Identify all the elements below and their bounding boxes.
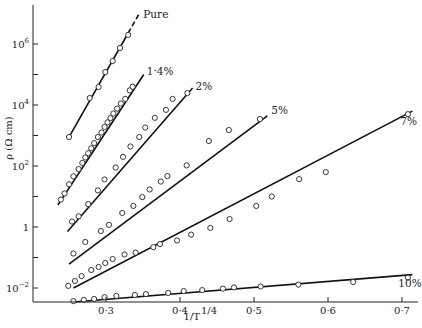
data-point — [103, 69, 108, 74]
data-point — [120, 210, 125, 215]
data-point — [227, 216, 232, 221]
data-point — [120, 154, 125, 159]
data-point — [151, 245, 156, 250]
data-point — [131, 203, 136, 208]
data-point — [184, 163, 189, 168]
data-point — [86, 151, 91, 156]
data-point — [118, 101, 123, 106]
data-point — [79, 274, 84, 279]
data-point — [220, 286, 225, 291]
data-point — [208, 225, 213, 230]
fit-line-extrapolated — [128, 14, 139, 34]
fit-line — [73, 111, 412, 288]
data-point — [126, 32, 131, 37]
data-point — [181, 288, 186, 293]
data-point — [128, 144, 133, 149]
data-point — [231, 285, 236, 290]
data-point — [106, 222, 111, 227]
data-point — [110, 256, 115, 261]
data-point — [158, 179, 163, 184]
y-axis-label: ρ (Ω cm) — [3, 116, 14, 160]
x-axis-label-exponent: 1/4 — [201, 305, 217, 316]
data-point — [257, 116, 262, 121]
data-point — [140, 195, 145, 200]
data-point — [200, 288, 205, 293]
series-14: 1·4% — [58, 65, 174, 206]
data-point — [92, 141, 97, 146]
y-tick-label: 104 — [12, 98, 30, 111]
y-tick-label: 1 — [23, 222, 29, 233]
data-point — [170, 96, 175, 101]
data-point — [189, 232, 194, 237]
data-point — [185, 91, 190, 96]
data-point — [72, 278, 77, 283]
data-point — [96, 264, 101, 269]
data-point — [130, 84, 135, 89]
data-point — [296, 282, 301, 287]
data-point — [110, 58, 115, 63]
data-point — [66, 134, 71, 139]
data-point — [95, 134, 100, 139]
data-point — [71, 251, 76, 256]
data-point — [117, 45, 122, 50]
fit-line — [73, 275, 412, 302]
series-label: 5% — [271, 104, 288, 116]
data-point — [99, 130, 104, 135]
data-point — [137, 134, 142, 139]
data-point — [58, 197, 63, 202]
data-point — [71, 174, 76, 179]
data-point — [69, 219, 74, 224]
data-point — [83, 239, 88, 244]
data-point — [71, 299, 76, 304]
data-point — [133, 250, 138, 255]
data-point — [206, 138, 211, 143]
data-point — [122, 252, 127, 257]
data-point — [166, 290, 171, 295]
x-axis-label-main: 1/T — [184, 311, 201, 322]
data-point — [89, 146, 94, 151]
series-7: 7% — [66, 111, 417, 288]
y-tick-label: 106 — [12, 37, 30, 50]
series-label: 7% — [400, 115, 417, 127]
data-point — [76, 166, 81, 171]
series-10: 10% — [71, 275, 422, 304]
data-point — [258, 284, 263, 289]
data-point — [157, 241, 162, 246]
data-point — [92, 296, 97, 301]
data-point — [269, 194, 274, 199]
data-point — [114, 293, 119, 298]
data-point — [86, 202, 91, 207]
data-point — [174, 238, 179, 243]
data-point — [113, 165, 118, 170]
data-point — [165, 173, 170, 178]
resistivity-chart: Pure1·4%2%5%7%10% 0·30·40·50·60·7 106104… — [0, 0, 422, 328]
data-point — [123, 96, 128, 101]
data-point — [147, 187, 152, 192]
data-point — [66, 182, 71, 187]
x-tick-label: 0·6 — [320, 305, 336, 316]
x-tick-label: 0·5 — [246, 305, 262, 316]
data-point — [226, 127, 231, 132]
y-tick-label: 10−2 — [6, 281, 29, 294]
data-point — [323, 170, 328, 175]
series-label: Pure — [143, 8, 168, 20]
data-point — [87, 95, 92, 100]
data-point — [163, 107, 168, 112]
data-point — [95, 188, 100, 193]
x-tick-label: 0·3 — [98, 305, 114, 316]
data-point — [254, 203, 259, 208]
y-tick-label: 102 — [12, 159, 29, 172]
series-label: 2% — [196, 80, 213, 92]
data-point — [111, 111, 116, 116]
data-point — [62, 191, 67, 196]
data-point — [152, 115, 157, 120]
x-axis-label: 1/T 1/4 — [184, 305, 218, 322]
data-point — [143, 125, 148, 130]
data-point — [351, 279, 356, 284]
data-point — [297, 177, 302, 182]
data-point — [89, 267, 94, 272]
data-point — [115, 106, 120, 111]
x-tick-label: 0·7 — [394, 305, 410, 316]
series-label: 10% — [398, 277, 421, 289]
data-point — [80, 160, 85, 165]
